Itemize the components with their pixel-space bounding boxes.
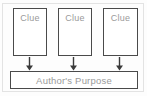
arrow-down-icon-3 bbox=[115, 57, 124, 71]
clue-box-3-label: Clue bbox=[104, 13, 137, 24]
arrow-down-icon-1 bbox=[25, 57, 34, 71]
arrow-down-icon-2 bbox=[69, 57, 78, 71]
clue-box-1-label: Clue bbox=[14, 13, 46, 24]
clue-box-2-label: Clue bbox=[59, 13, 91, 24]
clue-box-3[interactable]: Clue bbox=[103, 8, 138, 56]
diagram-canvas: Clue Clue Clue Author's Purpose bbox=[0, 0, 147, 96]
authors-purpose-label: Author's Purpose bbox=[11, 75, 137, 87]
clue-box-1[interactable]: Clue bbox=[13, 8, 47, 56]
clue-box-2[interactable]: Clue bbox=[58, 8, 92, 56]
authors-purpose-box[interactable]: Author's Purpose bbox=[10, 71, 138, 89]
